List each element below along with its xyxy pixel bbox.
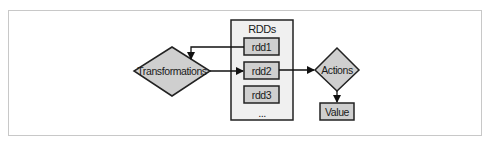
diagram-canvas: RDDs ... rdd1 rdd2 rdd3 Transformations … (0, 0, 491, 142)
transformations-node[interactable]: Transformations (134, 47, 210, 96)
value-label: Value (325, 106, 350, 118)
actions-node[interactable]: Actions (315, 48, 359, 91)
rdd-box-rdd3[interactable]: rdd3 (244, 86, 279, 103)
rdd-box-rdd2[interactable]: rdd2 (244, 62, 279, 79)
actions-label: Actions (321, 64, 353, 76)
rdd1-label: rdd1 (252, 41, 272, 53)
value-node[interactable]: Value (320, 103, 354, 120)
rdd2-label: rdd2 (252, 65, 272, 77)
rdds-ellipsis: ... (258, 107, 266, 119)
rdd3-label: rdd3 (252, 89, 272, 101)
rdds-container-label: RDDs (248, 23, 276, 35)
transformations-label: Transformations (137, 65, 207, 77)
rdd-box-rdd1[interactable]: rdd1 (244, 38, 279, 55)
